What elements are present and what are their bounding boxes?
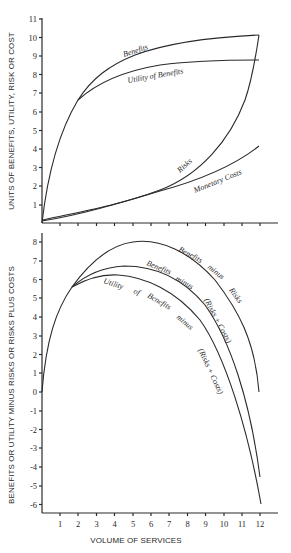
svg-text:5: 5 bbox=[33, 293, 37, 303]
svg-text:6: 6 bbox=[149, 519, 153, 529]
svg-text:11: 11 bbox=[29, 14, 37, 24]
monetary-costs-label: Monetary Costs bbox=[191, 167, 242, 195]
svg-text:10: 10 bbox=[29, 33, 38, 43]
svg-text:10: 10 bbox=[220, 519, 229, 529]
top-y-axis-title: UNITS OF BENEFITS, UTILITY, RISK OR COST bbox=[7, 32, 16, 210]
svg-text:5: 5 bbox=[131, 519, 135, 529]
bottom-y-axis-title: BENEFITS OR UTILITY MINUS RISKS OR RISKS… bbox=[7, 266, 16, 504]
svg-text:0: 0 bbox=[33, 387, 37, 397]
svg-text:3: 3 bbox=[33, 163, 37, 173]
svg-text:1: 1 bbox=[58, 519, 62, 529]
svg-text:11: 11 bbox=[238, 519, 246, 529]
svg-text:8: 8 bbox=[33, 70, 37, 80]
top-y-tick-labels: 11 10 9 8 7 6 5 4 3 2 1 bbox=[29, 14, 38, 210]
svg-text:4: 4 bbox=[33, 144, 38, 154]
svg-text:-6: -6 bbox=[30, 500, 37, 510]
svg-text:7: 7 bbox=[167, 519, 171, 529]
bottom-x-tick-labels: 1 2 3 4 5 6 7 8 9 10 11 12 bbox=[58, 519, 264, 529]
svg-text:3: 3 bbox=[94, 519, 98, 529]
svg-text:12: 12 bbox=[256, 519, 265, 529]
svg-text:Risks: Risks bbox=[227, 285, 245, 305]
svg-text:8: 8 bbox=[33, 237, 37, 247]
svg-text:Benefits: Benefits bbox=[177, 245, 204, 265]
svg-text:-2: -2 bbox=[30, 425, 37, 435]
svg-text:2: 2 bbox=[76, 519, 80, 529]
svg-text:Benefits: Benefits bbox=[146, 291, 173, 312]
svg-text:of: of bbox=[132, 287, 143, 298]
risks-curve bbox=[42, 35, 259, 220]
svg-text:(Risks + Costs): (Risks + Costs) bbox=[202, 297, 233, 345]
svg-text:Benefits: Benefits bbox=[145, 259, 172, 277]
utility-minus-risks-costs-label: Utility of Benefits minus (Risks + Costs… bbox=[102, 276, 225, 396]
svg-text:9: 9 bbox=[33, 51, 37, 61]
svg-text:minus: minus bbox=[174, 274, 195, 291]
svg-text:-1: -1 bbox=[30, 406, 37, 416]
svg-text:(Risks + Costs): (Risks + Costs) bbox=[196, 347, 225, 396]
bottom-chart: 8 7 6 5 4 3 2 1 0 -1 -2 -3 -4 -5 -6 bbox=[7, 233, 278, 545]
benefits-minus-risks-costs-curve bbox=[72, 266, 260, 477]
svg-text:2: 2 bbox=[33, 350, 37, 360]
svg-text:9: 9 bbox=[203, 519, 207, 529]
svg-text:5: 5 bbox=[33, 126, 37, 136]
chart-figure: 11 10 9 8 7 6 5 4 3 2 1 U bbox=[0, 0, 291, 553]
svg-text:minus: minus bbox=[206, 262, 227, 281]
benefits-curve bbox=[42, 35, 259, 223]
svg-text:4: 4 bbox=[112, 519, 117, 529]
svg-text:4: 4 bbox=[33, 312, 38, 322]
svg-text:1: 1 bbox=[33, 200, 37, 210]
svg-text:1: 1 bbox=[33, 368, 37, 378]
benefits-label: Benefits bbox=[122, 42, 149, 59]
svg-text:minus: minus bbox=[175, 313, 195, 332]
svg-text:6: 6 bbox=[33, 107, 37, 117]
svg-text:7: 7 bbox=[33, 88, 37, 98]
svg-text:3: 3 bbox=[33, 331, 37, 341]
svg-text:7: 7 bbox=[33, 256, 37, 266]
svg-text:-4: -4 bbox=[30, 462, 38, 472]
bottom-x-axis-title: VOLUME OF SERVICES bbox=[90, 536, 181, 545]
bottom-y-tick-labels: 8 7 6 5 4 3 2 1 0 -1 -2 -3 -4 -5 -6 bbox=[30, 237, 38, 510]
top-chart: 11 10 9 8 7 6 5 4 3 2 1 U bbox=[7, 14, 278, 226]
svg-text:-5: -5 bbox=[30, 481, 37, 491]
svg-text:8: 8 bbox=[185, 519, 189, 529]
risks-label: Risks bbox=[175, 156, 194, 175]
monetary-costs-curve bbox=[42, 146, 259, 221]
svg-text:6: 6 bbox=[33, 275, 37, 285]
svg-text:Utility: Utility bbox=[102, 276, 125, 291]
utility-of-benefits-curve bbox=[78, 60, 259, 100]
utility-of-benefits-label: Utility of Benefits bbox=[127, 66, 184, 85]
svg-text:2: 2 bbox=[33, 181, 37, 191]
svg-text:-3: -3 bbox=[30, 443, 37, 453]
